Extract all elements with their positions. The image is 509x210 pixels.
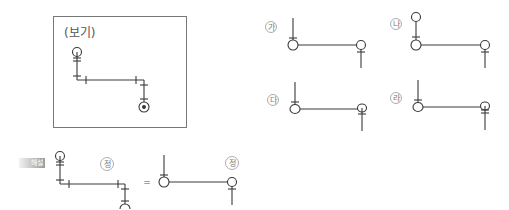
- option-na-diagram: [411, 13, 490, 69]
- option-ga-diagram: [288, 18, 366, 68]
- explanation-left-diagram: [56, 152, 131, 210]
- explanation-left-label: 정: [104, 159, 111, 169]
- option-label-na: 나: [393, 20, 401, 29]
- option-da-diagram: [290, 82, 367, 131]
- option-label-da: 다: [270, 96, 278, 105]
- example-box-title: (보기): [64, 26, 95, 40]
- diagram-canvas: (보기) 가 나 다 라 정 정 =: [0, 0, 509, 209]
- option-label-ga: 가: [268, 23, 276, 32]
- explanation-right-label: 정: [229, 158, 236, 168]
- equals-sign: =: [143, 177, 151, 187]
- option-ra-diagram: [413, 80, 490, 130]
- option-label-ra: 라: [393, 94, 401, 103]
- explanation-right-diagram: [159, 155, 237, 205]
